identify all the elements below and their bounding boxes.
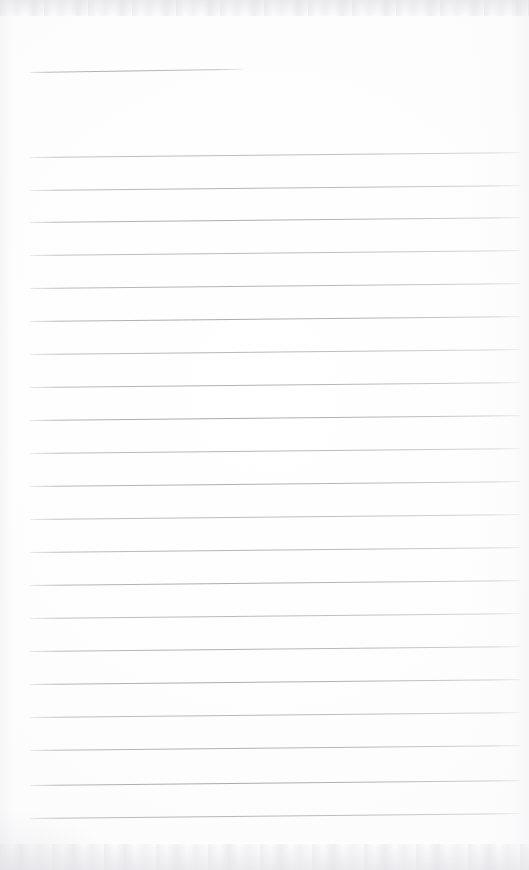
page-writing-area [30, 150, 520, 830]
scanned-page [0, 0, 529, 870]
